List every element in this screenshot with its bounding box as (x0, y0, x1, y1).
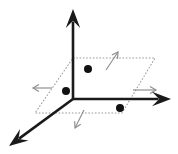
data-point (62, 87, 70, 95)
axes-plane-diagram (0, 0, 178, 154)
figure-background (0, 0, 178, 154)
data-point (116, 104, 124, 112)
data-point (84, 65, 92, 73)
figure-container (0, 0, 178, 154)
